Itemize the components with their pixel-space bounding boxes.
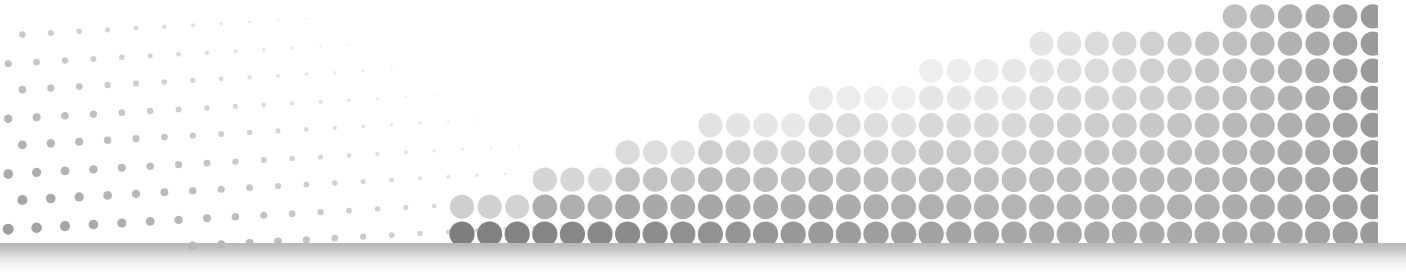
halftone-dot bbox=[809, 113, 833, 137]
halftone-dot bbox=[1333, 167, 1358, 192]
halftone-dot bbox=[19, 31, 25, 37]
halftone-dot bbox=[449, 221, 474, 246]
halftone-dot bbox=[204, 105, 210, 111]
halftone-dot bbox=[205, 51, 209, 55]
halftone-dot bbox=[615, 194, 640, 219]
halftone-dot bbox=[1305, 86, 1330, 111]
halftone-dot bbox=[919, 140, 944, 165]
halftone-dot bbox=[891, 194, 916, 219]
halftone-dot bbox=[1171, 220, 1174, 223]
halftone-dot bbox=[836, 221, 861, 246]
halftone-dot bbox=[726, 140, 750, 164]
halftone-dot bbox=[1195, 167, 1220, 192]
baseline-edge-line bbox=[0, 243, 1378, 245]
halftone-dot bbox=[260, 212, 267, 219]
halftone-dot bbox=[105, 27, 110, 32]
halftone-dot bbox=[1084, 140, 1109, 165]
halftone-dot bbox=[361, 179, 366, 184]
halftone-dot bbox=[753, 113, 777, 137]
halftone-dot bbox=[76, 83, 83, 90]
halftone-dot bbox=[1305, 167, 1330, 192]
halftone-dot bbox=[674, 218, 677, 221]
halftone-dot bbox=[753, 167, 778, 192]
halftone-dot bbox=[505, 221, 530, 246]
halftone-dot bbox=[1305, 140, 1330, 165]
halftone-dot bbox=[1029, 31, 1053, 55]
halftone-dot bbox=[232, 158, 238, 164]
halftone-dot bbox=[305, 72, 309, 76]
halftone-dot bbox=[1305, 4, 1329, 28]
halftone-dot bbox=[532, 221, 557, 246]
halftone-dot bbox=[1278, 113, 1303, 138]
halftone-dot bbox=[864, 86, 888, 110]
halftone-dot bbox=[347, 153, 352, 158]
halftone-dot bbox=[1029, 167, 1054, 192]
halftone-dot bbox=[808, 167, 833, 192]
halftone-dot bbox=[119, 55, 125, 61]
halftone-dot bbox=[1140, 167, 1165, 192]
halftone-dot bbox=[1223, 86, 1248, 111]
halftone-dot bbox=[89, 165, 97, 173]
halftone-dot bbox=[118, 164, 126, 172]
halftone-dot bbox=[947, 113, 972, 138]
halftone-dot bbox=[162, 79, 168, 85]
halftone-dot bbox=[808, 194, 833, 219]
halftone-dot bbox=[726, 167, 751, 192]
halftone-dot bbox=[1112, 221, 1137, 246]
halftone-dot bbox=[1029, 140, 1054, 165]
halftone-dot bbox=[615, 221, 640, 246]
halftone-dot bbox=[432, 204, 437, 209]
halftone-dot bbox=[418, 122, 421, 125]
halftone-dot bbox=[698, 167, 723, 192]
halftone-dot bbox=[1195, 113, 1220, 138]
halftone-dot bbox=[643, 140, 667, 164]
halftone-dot bbox=[1167, 194, 1192, 219]
halftone-dot bbox=[1112, 140, 1137, 165]
halftone-dot bbox=[670, 194, 695, 219]
halftone-dot bbox=[47, 139, 55, 147]
halftone-dot bbox=[946, 221, 971, 246]
halftone-dot bbox=[33, 59, 40, 66]
halftone-dot bbox=[1002, 113, 1027, 138]
baseline-shadow-band bbox=[0, 243, 1406, 277]
halftone-dot bbox=[1002, 167, 1027, 192]
halftone-dot bbox=[176, 107, 182, 113]
halftone-dot bbox=[275, 183, 281, 189]
halftone-dot bbox=[146, 162, 154, 170]
halftone-dot bbox=[103, 191, 112, 200]
halftone-dot bbox=[1278, 59, 1302, 83]
halftone-dot bbox=[1195, 86, 1220, 111]
halftone-dot bbox=[218, 131, 224, 137]
halftone-dot bbox=[781, 140, 805, 164]
halftone-dot bbox=[698, 221, 723, 246]
halftone-dot bbox=[404, 96, 407, 99]
halftone-dot bbox=[1333, 4, 1357, 28]
halftone-dot bbox=[1250, 86, 1275, 111]
halftone-dot bbox=[174, 216, 182, 224]
halftone-dot bbox=[204, 160, 211, 167]
halftone-dot bbox=[836, 113, 860, 137]
halftone-dot bbox=[132, 190, 140, 198]
halftone-dot bbox=[1001, 221, 1026, 246]
halftone-dot bbox=[332, 180, 338, 186]
halftone-dot bbox=[1250, 221, 1275, 246]
halftone-dot bbox=[1140, 31, 1164, 55]
halftone-dot bbox=[304, 127, 309, 132]
halftone-dot bbox=[1305, 194, 1330, 219]
halftone-dot bbox=[4, 115, 12, 123]
halftone-dot bbox=[781, 194, 806, 219]
halftone-dot bbox=[781, 113, 805, 137]
halftone-dot bbox=[808, 221, 833, 246]
halftone-dot bbox=[348, 44, 350, 46]
halftone-dot bbox=[615, 140, 639, 164]
halftone-dot bbox=[248, 20, 251, 23]
halftone-dot bbox=[1222, 140, 1247, 165]
halftone-dot bbox=[588, 194, 613, 219]
halftone-dot bbox=[219, 76, 224, 81]
halftone-dot bbox=[1084, 221, 1109, 246]
halftone-dot bbox=[1250, 194, 1275, 219]
halftone-dot bbox=[891, 86, 915, 110]
halftone-dot bbox=[1333, 194, 1358, 219]
halftone-dot bbox=[1140, 59, 1164, 83]
halftone-dot bbox=[1057, 31, 1081, 55]
